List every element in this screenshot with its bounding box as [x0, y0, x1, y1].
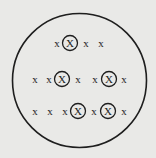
x-mark: x: [62, 105, 68, 117]
circled-x-mark: X: [105, 73, 113, 85]
circled-x-mark: X: [58, 73, 66, 85]
marks-group: xXxxxxXxxXxxxxXxXx: [32, 36, 127, 119]
x-mark: x: [75, 73, 81, 85]
x-mark: x: [47, 105, 53, 117]
x-mark: x: [98, 37, 104, 49]
x-mark: x: [32, 73, 38, 85]
x-mark: x: [121, 73, 127, 85]
x-mark: x: [54, 37, 60, 49]
x-mark: x: [121, 105, 127, 117]
x-mark: x: [32, 105, 38, 117]
circled-x-mark: X: [104, 105, 112, 117]
cell-diagram: xXxxxxXxxXxxxxXxXx: [0, 0, 156, 158]
x-mark: x: [83, 37, 89, 49]
circled-x-mark: X: [66, 37, 74, 49]
x-mark: x: [92, 73, 98, 85]
x-mark: x: [46, 73, 52, 85]
circled-x-mark: X: [74, 105, 82, 117]
x-mark: x: [91, 105, 97, 117]
